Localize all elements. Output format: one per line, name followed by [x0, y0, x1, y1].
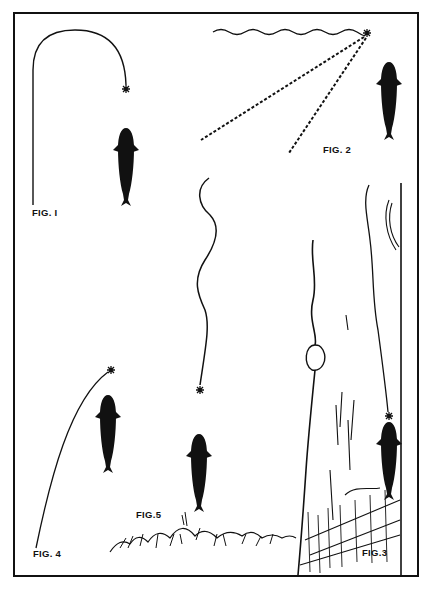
fig2-label: FIG. 2 — [323, 144, 351, 155]
fig2-drawing — [201, 29, 402, 153]
illustration-plate: FIG. I FIG. 2 FIG.3 FIG. 4 FIG.5 — [0, 0, 431, 591]
fig1-label: FIG. I — [32, 207, 58, 218]
fig5-label: FIG.5 — [136, 509, 161, 520]
fig5-drawing — [110, 178, 296, 552]
plate-frame — [14, 13, 418, 576]
fig3-drawing — [298, 183, 402, 575]
fig1-drawing — [33, 30, 139, 206]
fig3-label: FIG.3 — [362, 547, 387, 558]
fig4-drawing — [36, 366, 121, 548]
fig4-label: FIG. 4 — [33, 548, 61, 559]
illustration-drawing — [0, 0, 431, 591]
